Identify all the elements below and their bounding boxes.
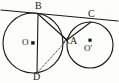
segment-DA-dashed — [37, 40, 67, 73]
center-point-o-prime — [88, 39, 91, 42]
center-label-o: O — [22, 38, 29, 47]
tangent-line — [1, 10, 118, 21]
vertex-label-a: A — [70, 36, 77, 46]
geometry-figure: B C O A O' D — [0, 0, 119, 83]
segment-BD — [37, 14, 38, 73]
vertex-label-b: B — [35, 1, 42, 11]
center-label-o-prime: O' — [84, 44, 92, 53]
vertex-label-d: D — [33, 72, 40, 82]
geometry-canvas — [0, 0, 119, 83]
center-point-o — [31, 41, 34, 44]
vertex-label-c: C — [88, 9, 95, 19]
